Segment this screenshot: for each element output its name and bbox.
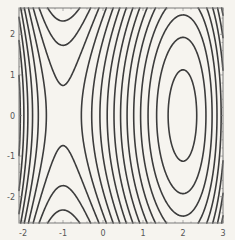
- y-axis-tick-labels: -2-1012: [7, 30, 15, 201]
- y-tick-label: 0: [10, 112, 15, 121]
- contour-plot: -2-10123 -2-1012: [0, 0, 235, 240]
- y-tick-label: -1: [7, 152, 15, 161]
- x-tick-label: 2: [180, 229, 185, 238]
- contour-lines: [19, 8, 223, 223]
- x-tick-label: -2: [19, 229, 27, 238]
- contour-line: [48, 8, 80, 223]
- contour-line: [28, 8, 106, 223]
- y-tick-label: 2: [10, 30, 15, 39]
- contour-line: [19, 8, 223, 223]
- x-tick-label: -1: [59, 229, 67, 238]
- contour-line: [168, 70, 197, 161]
- x-tick-label: 0: [100, 229, 105, 238]
- x-tick-label: 3: [220, 229, 225, 238]
- x-axis-tick-labels: -2-10123: [19, 229, 226, 238]
- contour-line: [148, 15, 212, 216]
- contour-line: [127, 8, 223, 223]
- contour-line: [157, 37, 206, 193]
- y-tick-label: 1: [10, 71, 15, 80]
- y-tick-label: -2: [7, 193, 15, 202]
- x-tick-label: 1: [140, 229, 145, 238]
- contour-line: [33, 8, 99, 223]
